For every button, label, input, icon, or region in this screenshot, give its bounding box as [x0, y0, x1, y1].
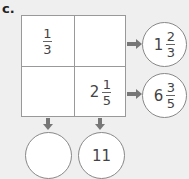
whole-part: 6 [154, 87, 164, 105]
fraction: 2 3 [166, 30, 175, 59]
denominator: 3 [43, 43, 51, 56]
row-total-circle-1: 1 2 3 [142, 22, 187, 67]
whole-part: 2 [90, 83, 100, 101]
arrow-down-icon [98, 118, 102, 125]
fraction: 1 5 [102, 78, 111, 107]
fraction: 1 3 [43, 27, 52, 56]
mixed-number: 6 3 5 [154, 81, 176, 110]
column-total-circle-1[interactable] [25, 132, 72, 179]
numerator: 3 [167, 81, 175, 94]
column-total-circle-2: 11 [78, 132, 125, 179]
arrow-down-icon [46, 118, 50, 125]
column-total-value: 11 [92, 147, 111, 165]
numerator: 2 [167, 30, 175, 43]
mixed-number: 1 2 3 [154, 30, 176, 59]
exercise-label: c. [2, 1, 15, 16]
denominator: 5 [167, 97, 175, 110]
arrow-right-icon [127, 42, 137, 46]
arrow-right-icon [127, 92, 137, 96]
fraction: 3 5 [166, 81, 175, 110]
denominator: 3 [167, 46, 175, 59]
numerator: 1 [103, 78, 111, 91]
addition-grid: 1 3 2 1 5 [21, 15, 126, 117]
denominator: 5 [103, 94, 111, 107]
cell-top-left: 1 3 [22, 16, 73, 66]
whole-part: 1 [154, 36, 164, 54]
cell-bottom-right: 2 1 5 [75, 67, 126, 117]
cell-top-right[interactable] [75, 16, 126, 66]
cell-bottom-left[interactable] [22, 67, 73, 117]
row-total-circle-2: 6 3 5 [142, 73, 187, 118]
numerator: 1 [43, 27, 51, 40]
mixed-number: 2 1 5 [90, 78, 112, 107]
